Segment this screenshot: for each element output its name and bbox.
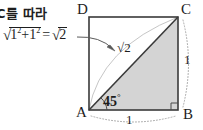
degree-symbol: ° <box>117 92 121 102</box>
right-side-length-label: 1 <box>184 53 191 66</box>
vertex-label-b: B <box>183 107 193 122</box>
vertex-label-d: D <box>77 2 88 17</box>
vertex-label-c: C <box>181 2 191 17</box>
vertex-label-a: A <box>76 105 87 120</box>
bottom-side-length-label: 1 <box>126 113 133 126</box>
diagonal-length-label: √2 <box>117 41 131 54</box>
angle-value: 45 <box>103 94 117 109</box>
geometry-figure-screenshot: C를 따라 √12+12=√2 D C A B 45° √2 1 1 <box>0 0 203 130</box>
callout-arrow-head-icon <box>107 45 115 51</box>
angle-label-45-degrees: 45° <box>103 95 121 109</box>
square-diagram-svg <box>0 0 203 130</box>
dotted-arc-bottom <box>91 116 176 122</box>
